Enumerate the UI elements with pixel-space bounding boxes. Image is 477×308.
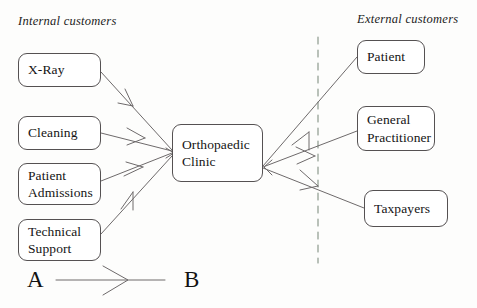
node-general-practitioner[interactable]: General Practitioner — [357, 106, 435, 151]
arrowhead-gp — [296, 147, 315, 164]
connector-clinic-to-gp — [263, 131, 357, 167]
node-technical-support-label-line1: Technical — [28, 223, 81, 240]
node-orthopaedic-clinic[interactable]: Orthopaedic Clinic — [172, 124, 263, 182]
diagram-canvas: Internal customers External customers X-… — [0, 0, 477, 308]
arrowhead-admissions — [124, 162, 143, 176]
node-technical-support-label-line2: Support — [28, 240, 71, 257]
node-patient-admissions-label-line1: Patient — [28, 167, 66, 184]
node-patient-admissions-label-line2: Admissions — [28, 184, 93, 201]
node-general-practitioner-label-line1: General — [367, 111, 410, 128]
heading-external-customers: External customers — [357, 12, 458, 27]
arrowhead-cleaning — [127, 128, 145, 145]
connector-admissions-to-clinic — [101, 153, 172, 181]
node-x-ray[interactable]: X-Ray — [18, 53, 101, 87]
arrowhead-xray — [118, 89, 133, 106]
arrowhead-patient — [292, 132, 309, 150]
connector-cleaning-to-clinic — [101, 133, 172, 151]
heading-internal-customers: Internal customers — [18, 14, 117, 29]
node-x-ray-label: X-Ray — [28, 61, 65, 78]
node-cleaning[interactable]: Cleaning — [18, 116, 101, 150]
node-taxpayers-label: Taxpayers — [374, 200, 430, 217]
node-technical-support[interactable]: Technical Support — [18, 219, 101, 261]
connector-xray-to-clinic — [101, 72, 172, 150]
legend-label-b: B — [184, 268, 199, 291]
legend-label-a: A — [27, 268, 44, 291]
arrowhead-clinic-right — [264, 160, 272, 175]
node-cleaning-label: Cleaning — [28, 124, 78, 141]
arrowhead-taxpayers — [300, 170, 318, 190]
node-patient[interactable]: Patient — [357, 40, 425, 74]
node-orthopaedic-clinic-label-line2: Clinic — [182, 153, 216, 170]
node-patient-label: Patient — [367, 48, 405, 65]
connector-clinic-to-taxpayers — [263, 168, 364, 208]
node-orthopaedic-clinic-label-line1: Orthopaedic — [182, 136, 250, 153]
connector-support-to-clinic — [101, 156, 172, 234]
arrowhead-support — [121, 192, 133, 210]
node-general-practitioner-label-line2: Practitioner — [367, 129, 431, 146]
node-patient-admissions[interactable]: Patient Admissions — [18, 163, 101, 205]
connector-clinic-to-patient — [263, 57, 357, 166]
node-taxpayers[interactable]: Taxpayers — [364, 190, 448, 227]
legend-arrowhead — [103, 266, 128, 295]
